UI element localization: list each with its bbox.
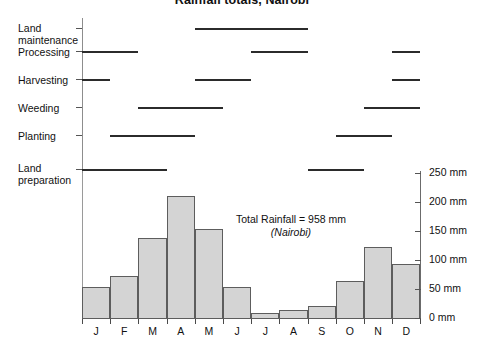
y-tick-label-250: 250 mm — [429, 166, 467, 178]
y-tick-label-200: 200 mm — [429, 195, 467, 207]
gantt-bar — [308, 169, 364, 171]
total-rainfall-text: Total Rainfall = 958 mm — [236, 213, 346, 225]
total-rainfall-annotation: Total Rainfall = 958 mm (Nairobi) — [196, 213, 386, 239]
gantt-bar — [82, 169, 167, 171]
y-tick-250 — [415, 173, 421, 174]
gantt-task-label-harvesting: Harvesting — [18, 74, 68, 86]
gantt-bar — [110, 135, 195, 137]
gantt-tick-planting — [76, 135, 82, 136]
gantt-bar — [392, 51, 420, 53]
month-label-O: O — [336, 325, 364, 337]
bar-J — [223, 287, 251, 319]
x-tick — [336, 319, 337, 324]
bar-S — [308, 306, 336, 319]
y-tick-label-0: 0 mm — [429, 311, 455, 323]
gantt-bar — [195, 79, 251, 81]
gantt-task-label-land-maintenance: Land maintenance — [18, 22, 78, 46]
month-label-S: S — [308, 325, 336, 337]
month-label-D: D — [392, 325, 420, 337]
x-tick — [420, 319, 421, 324]
bar-N — [364, 247, 392, 320]
figure-title: Rainfall totals, Nairobi — [0, 0, 484, 7]
bar-D — [392, 264, 420, 319]
bar-M — [138, 238, 166, 319]
bar-O — [336, 281, 364, 319]
month-label-J: J — [223, 325, 251, 337]
month-label-M: M — [139, 325, 167, 337]
month-label-J: J — [251, 325, 279, 337]
gantt-task-label-land-preparation: Land preparation — [18, 162, 71, 186]
month-label-M: M — [195, 325, 223, 337]
y-tick-label-50: 50 mm — [429, 282, 461, 294]
y-tick-label-100: 100 mm — [429, 253, 467, 265]
gantt-tick-land-maintenance — [76, 28, 82, 29]
x-tick — [279, 319, 280, 324]
gantt-tick-weeding — [76, 107, 82, 108]
x-tick — [251, 319, 252, 324]
gantt-bar — [82, 51, 138, 53]
gantt-bar — [336, 135, 392, 137]
y-tick-200 — [415, 202, 421, 203]
y-tick-100 — [415, 260, 421, 261]
x-tick — [223, 319, 224, 324]
x-tick — [167, 319, 168, 324]
gantt-bar — [364, 107, 420, 109]
x-tick — [392, 319, 393, 324]
rainfall-farming-calendar-figure: Rainfall totals, Nairobi Land maintenanc… — [0, 0, 484, 349]
y-tick-150 — [415, 231, 421, 232]
y-tick-label-150: 150 mm — [429, 224, 467, 236]
month-label-J: J — [82, 325, 110, 337]
x-tick — [82, 319, 83, 324]
x-tick — [138, 319, 139, 324]
month-label-F: F — [110, 325, 138, 337]
gantt-bar — [251, 51, 307, 53]
gantt-bar — [195, 28, 308, 30]
bar-J — [82, 287, 110, 319]
gantt-task-label-processing: Processing — [18, 46, 70, 58]
gantt-task-label-planting: Planting — [18, 130, 56, 142]
gantt-task-label-weeding: Weeding — [18, 102, 59, 114]
bar-J — [251, 313, 279, 319]
x-tick — [195, 319, 196, 324]
x-tick — [110, 319, 111, 324]
month-label-A: A — [280, 325, 308, 337]
bar-F — [110, 276, 138, 320]
bar-A — [279, 310, 307, 319]
gantt-vertical-axis — [82, 18, 83, 182]
y-tick-50 — [415, 289, 421, 290]
x-tick — [308, 319, 309, 324]
x-tick — [364, 319, 365, 324]
gantt-bar — [82, 79, 110, 81]
bar-A — [167, 196, 195, 319]
gantt-bar — [138, 107, 223, 109]
location-text: (Nairobi) — [196, 226, 386, 239]
month-label-A: A — [167, 325, 195, 337]
gantt-bar — [392, 79, 420, 81]
month-label-N: N — [364, 325, 392, 337]
bar-M — [195, 229, 223, 319]
bars-container — [82, 173, 420, 319]
